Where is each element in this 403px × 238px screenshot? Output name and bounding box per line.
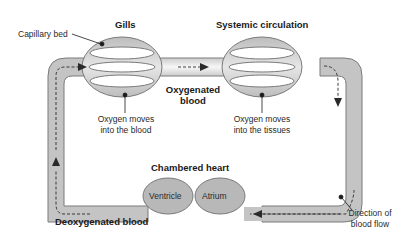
direction-of-flow-label: Direction of blood flow	[338, 208, 402, 230]
ventricle-label: Ventricle	[149, 191, 182, 202]
oxygen-into-tissues-label: Oxygen moves into the tissues	[222, 114, 302, 136]
deoxygenated-blood-label: Deoxygenated blood	[55, 216, 148, 227]
atrium-label: Atrium	[202, 191, 227, 202]
chambered-heart-label: Chambered heart	[151, 162, 229, 173]
systemic-circulation-label: Systemic circulation	[216, 19, 308, 30]
circulation-diagram: Gills Systemic circulation Capillary bed…	[0, 0, 403, 238]
oxygen-into-blood-label: Oxygen moves into the blood	[88, 114, 164, 136]
gills-label: Gills	[115, 19, 136, 30]
gills-capillary-bed	[82, 37, 162, 97]
capillary-bed-label: Capillary bed	[18, 29, 68, 40]
arrow-down-icon	[334, 98, 342, 107]
oxygenated-blood-label: Oxygenated blood	[160, 84, 226, 106]
systemic-capillary-bed	[222, 37, 302, 97]
